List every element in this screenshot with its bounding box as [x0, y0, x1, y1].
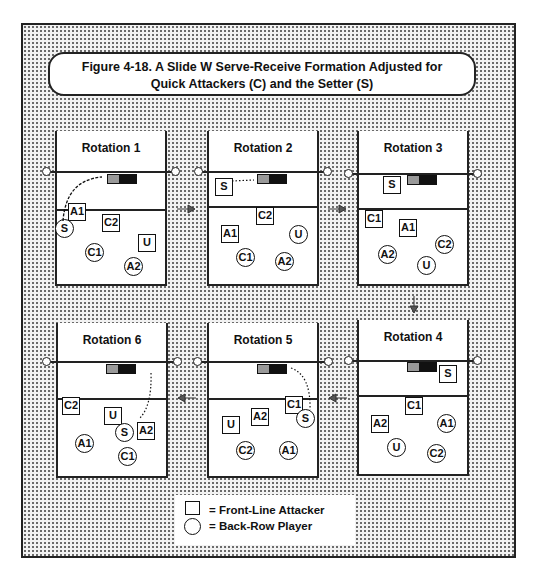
net-post-left	[344, 169, 353, 178]
net-line	[197, 361, 329, 363]
player-front-C2: C2	[62, 397, 80, 415]
player-back-U: U	[387, 438, 406, 457]
player-front-U: U	[104, 407, 122, 425]
setter-target-zone	[257, 364, 287, 374]
player-back-C2: C2	[236, 441, 255, 460]
player-back-A2: A2	[124, 257, 143, 276]
net-post-left	[193, 357, 202, 366]
player-back-C1: C1	[236, 248, 255, 267]
player-back-S: S	[115, 423, 134, 442]
net-post-right	[324, 357, 333, 366]
player-back-C1: C1	[85, 243, 104, 262]
rotation-label: Rotation 2	[209, 141, 317, 155]
player-back-C2: C2	[427, 444, 446, 463]
player-front-C2: C2	[256, 207, 274, 225]
player-back-U: U	[289, 225, 308, 244]
net-line	[46, 361, 178, 363]
net-post-left	[42, 167, 51, 176]
legend-back-row: = Back-Row Player	[209, 520, 312, 532]
player-front-S: S	[439, 365, 457, 383]
rotation-label: Rotation 6	[58, 333, 166, 347]
player-front-A2: A2	[251, 408, 269, 426]
net-post-left	[42, 357, 51, 366]
net-post-right	[473, 356, 482, 365]
court-rotation-4: Rotation 4 S C1 A2 A1 U C2	[357, 320, 469, 476]
net-post-right	[173, 357, 182, 366]
rotation-label: Rotation 1	[57, 141, 165, 155]
court-rotation-5: Rotation 5 C1 A2 U S C2 A1	[207, 323, 319, 478]
player-back-A1: A1	[279, 441, 298, 460]
net-post-right	[323, 167, 332, 176]
player-front-C2: C2	[102, 214, 120, 232]
player-front-C1: C1	[365, 210, 383, 228]
court-rotation-6: Rotation 6 C2 U A2 S A1 C1	[56, 323, 168, 478]
setter-target-zone	[257, 174, 287, 184]
net-post-left	[194, 167, 203, 176]
setter-target-zone	[407, 175, 437, 185]
circle-symbol-icon	[184, 518, 201, 535]
player-front-A1: A1	[399, 219, 417, 237]
player-back-C2: C2	[435, 235, 454, 254]
legend: = Front-Line Attacker = Back-Row Player	[175, 495, 355, 545]
setter-target-zone	[107, 174, 137, 184]
setter-target-zone	[106, 364, 136, 374]
title-line-1: Figure 4-18. A Slide W Serve-Receive For…	[50, 59, 474, 76]
player-front-A2: A2	[137, 422, 155, 440]
player-back-S: S	[296, 409, 315, 428]
title-line-2: Quick Attackers (C) and the Setter (S)	[50, 76, 474, 93]
player-back-A1: A1	[75, 434, 94, 453]
player-back-A1: A1	[437, 414, 456, 433]
player-front-A1: A1	[68, 203, 86, 221]
player-front-A1: A1	[221, 225, 239, 243]
net-line	[197, 171, 329, 173]
net-post-right	[473, 169, 482, 178]
player-front-U: U	[222, 416, 240, 434]
figure-title: Figure 4-18. A Slide W Serve-Receive For…	[48, 52, 476, 96]
net-line	[45, 171, 177, 173]
net-post-left	[344, 356, 353, 365]
rotation-label: Rotation 3	[359, 141, 467, 155]
player-back-U: U	[417, 256, 436, 275]
court-rotation-1: Rotation 1 A1 C2 U S C1 A2	[55, 131, 167, 286]
player-front-A2: A2	[371, 415, 389, 433]
net-post-right	[171, 167, 180, 176]
rotation-label: Rotation 4	[359, 330, 467, 344]
player-front-S: S	[215, 178, 233, 196]
court-rotation-3: Rotation 3 S C1 A1 C2 A2 U	[357, 131, 469, 286]
player-front-C1: C1	[405, 397, 423, 415]
court-rotation-2: Rotation 2 S C2 A1 U C1 A2	[207, 131, 319, 286]
player-back-C1: C1	[118, 447, 137, 466]
player-front-U: U	[138, 234, 156, 252]
rotation-label: Rotation 5	[209, 333, 317, 347]
player-back-A2: A2	[275, 252, 294, 271]
player-back-S: S	[55, 219, 74, 238]
legend-front-line: = Front-Line Attacker	[209, 504, 325, 516]
player-front-S: S	[383, 176, 401, 194]
square-symbol-icon	[185, 501, 200, 515]
player-back-A2: A2	[378, 245, 397, 264]
setter-target-zone	[407, 362, 437, 372]
